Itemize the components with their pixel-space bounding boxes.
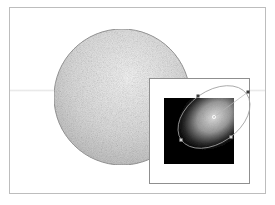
gradient-editor-layer — [0, 0, 275, 205]
control-point-top-left[interactable] — [197, 95, 200, 98]
gradient-swatch — [164, 98, 234, 164]
illustration-canvas — [0, 0, 275, 205]
control-point-bottom-right[interactable] — [230, 136, 233, 139]
control-point-bottom-left[interactable] — [180, 139, 183, 142]
control-point-top-right[interactable] — [247, 91, 250, 94]
